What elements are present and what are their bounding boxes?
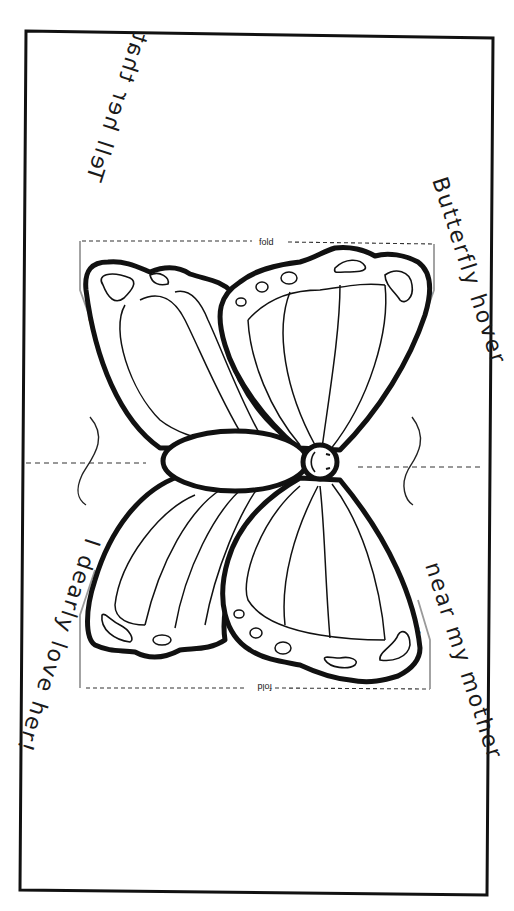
top-fold-line-2	[288, 242, 434, 244]
butterfly-head	[303, 445, 337, 479]
butterfly	[86, 247, 430, 681]
butterfly-body	[163, 431, 307, 491]
template-drawing: fold fold cut cut cut cut	[0, 0, 514, 911]
card-template: fold fold cut cut cut cut	[0, 0, 514, 911]
verse-bottom-left: I dearly love her!	[12, 535, 105, 756]
verse-bottom-right: near my mother	[420, 559, 508, 763]
eye-left	[326, 454, 330, 455]
bottom-fold-label: fold	[257, 682, 272, 692]
top-fold-label: fold	[259, 237, 274, 247]
verse-top-left: Tell her that	[81, 27, 153, 185]
verse-top-right: Butterfly hover	[427, 174, 511, 368]
eye-right	[326, 468, 330, 469]
squiggle-mark-right	[404, 417, 421, 505]
squiggle-mark-left	[78, 417, 99, 505]
bottom-fold-line-2	[275, 688, 430, 689]
